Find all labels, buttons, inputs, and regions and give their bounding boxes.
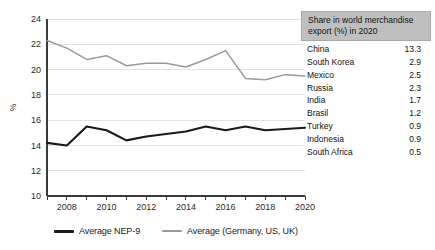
x-tick-label: 2018 bbox=[255, 202, 275, 212]
x-tick-label: 2010 bbox=[97, 202, 117, 212]
x-axis-tick-labels: 2008201020122014201620182020 bbox=[57, 202, 315, 212]
export-share-value: 1.2 bbox=[388, 107, 431, 120]
export-share-value: 0.5 bbox=[388, 145, 431, 158]
y-axis-title: % bbox=[8, 103, 18, 111]
series-line bbox=[47, 40, 305, 79]
export-share-value: 0.9 bbox=[388, 120, 431, 133]
share-table-body: China13.3South Korea2.9Mexico2.5Russia2.… bbox=[301, 42, 431, 158]
series-line bbox=[47, 126, 305, 145]
line-chart: 1012141618202224 20082010201220142016201… bbox=[0, 0, 320, 250]
country-name: Turkey bbox=[301, 120, 388, 133]
table-row: India1.7 bbox=[301, 94, 431, 107]
chart-legend: Average NEP-9Average (Germany, US, UK) bbox=[54, 226, 298, 236]
export-share-value: 0.9 bbox=[388, 133, 431, 146]
legend-label: Average (Germany, US, UK) bbox=[187, 226, 298, 236]
x-tick-label: 2008 bbox=[57, 202, 77, 212]
x-tick-label: 2012 bbox=[136, 202, 156, 212]
chart-page: 1012141618202224 20082010201220142016201… bbox=[0, 0, 435, 250]
table-row: Russia2.3 bbox=[301, 81, 431, 94]
table-row: South Korea2.9 bbox=[301, 55, 431, 68]
country-name: India bbox=[301, 94, 388, 107]
export-share-value: 2.5 bbox=[388, 68, 431, 81]
axes bbox=[47, 19, 305, 196]
y-tick-label: 24 bbox=[31, 14, 41, 24]
gridlines bbox=[47, 19, 305, 196]
y-axis-tick-labels: 1012141618202224 bbox=[31, 14, 41, 201]
y-tick-label: 12 bbox=[31, 166, 41, 176]
country-name: China bbox=[301, 42, 388, 55]
country-name: South Africa bbox=[301, 145, 388, 158]
chart-canvas: 1012141618202224 20082010201220142016201… bbox=[0, 0, 320, 250]
table-row: South Africa0.5 bbox=[301, 145, 431, 158]
x-tick-label: 2016 bbox=[216, 202, 236, 212]
table-row: China13.3 bbox=[301, 42, 431, 55]
table-row: Mexico2.5 bbox=[301, 68, 431, 81]
country-name: Indonesia bbox=[301, 133, 388, 146]
share-table-header: Share in world merchandise export (%) in… bbox=[301, 11, 431, 41]
export-share-value: 2.3 bbox=[388, 81, 431, 94]
country-name: South Korea bbox=[301, 55, 388, 68]
legend-item[interactable]: Average NEP-9 bbox=[54, 226, 140, 236]
y-tick-label: 14 bbox=[31, 141, 41, 151]
export-share-value: 2.9 bbox=[388, 55, 431, 68]
country-name: Russia bbox=[301, 81, 388, 94]
export-share-value: 13.3 bbox=[388, 42, 431, 55]
share-table: Share in world merchandise export (%) in… bbox=[301, 11, 431, 158]
legend-item[interactable]: Average (Germany, US, UK) bbox=[162, 226, 298, 236]
table-row: Turkey0.9 bbox=[301, 120, 431, 133]
y-tick-label: 18 bbox=[31, 90, 41, 100]
y-tick-label: 10 bbox=[31, 191, 41, 201]
table-row: Indonesia0.9 bbox=[301, 133, 431, 146]
country-name: Brasil bbox=[301, 107, 388, 120]
y-tick-label: 16 bbox=[31, 115, 41, 125]
x-tick-label: 2014 bbox=[176, 202, 196, 212]
legend-label: Average NEP-9 bbox=[79, 226, 140, 236]
export-share-value: 1.7 bbox=[388, 94, 431, 107]
country-name: Mexico bbox=[301, 68, 388, 81]
legend-swatch bbox=[54, 230, 74, 233]
data-series bbox=[47, 40, 305, 145]
table-row: Brasil1.2 bbox=[301, 107, 431, 120]
y-tick-label: 22 bbox=[31, 39, 41, 49]
x-tick-label: 2020 bbox=[295, 202, 315, 212]
y-tick-label: 20 bbox=[31, 65, 41, 75]
legend-swatch bbox=[162, 230, 182, 233]
